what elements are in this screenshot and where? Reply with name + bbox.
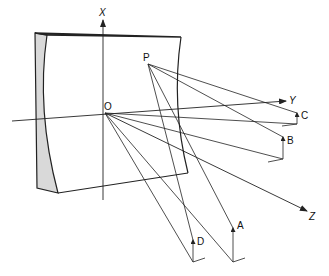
- rays-from-p: [148, 64, 297, 240]
- y-axis-label: Y: [289, 95, 297, 106]
- point-b-label: B: [287, 135, 294, 146]
- lens-top-edge: [35, 33, 181, 37]
- axes: [12, 20, 307, 211]
- lens-curved-face: [35, 33, 58, 193]
- point-a-label: A: [237, 220, 244, 231]
- point-c-label: C: [301, 110, 308, 121]
- origin-label: O: [104, 101, 112, 112]
- x-axis-label: X: [98, 7, 106, 18]
- z-axis-label: Z: [308, 211, 316, 222]
- optics-diagram: X Y Z O P C B A D: [0, 0, 329, 276]
- z-axis: [105, 113, 307, 211]
- y-axis: [12, 101, 286, 121]
- object-arrows: [193, 113, 297, 262]
- point-d-label: D: [197, 236, 204, 247]
- point-p-label: P: [143, 52, 150, 63]
- lens-bottom-edge: [58, 173, 188, 193]
